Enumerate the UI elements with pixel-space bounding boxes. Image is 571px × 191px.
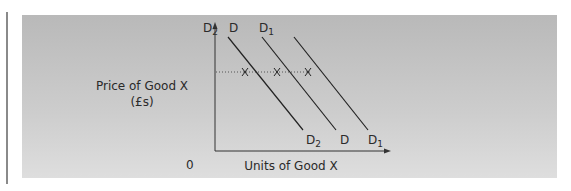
label-d1-top: D1 — [259, 21, 274, 37]
label-d-top: D — [229, 21, 238, 35]
x-axis-label: Units of Good X — [244, 159, 338, 173]
label-d-bottom: D — [340, 133, 349, 147]
intersection-mark-d2 — [242, 68, 248, 76]
curve-d1 — [294, 37, 368, 130]
intersection-mark-d1 — [305, 68, 311, 76]
label-d1-bottom: D1 — [368, 133, 383, 149]
demand-diagram: D2 D D1 D2 D D1 Price of Good X (£s) Uni… — [0, 0, 571, 191]
curve-d — [262, 37, 336, 130]
x-axis-arrow-icon — [384, 149, 391, 154]
y-axis-unit: (£s) — [130, 95, 153, 109]
origin-label: 0 — [186, 158, 194, 172]
curve-d2 — [228, 37, 303, 130]
label-d2-bottom: D2 — [306, 133, 321, 149]
y-axis-label: Price of Good X — [96, 79, 188, 93]
label-d2-top: D2 — [203, 21, 218, 37]
